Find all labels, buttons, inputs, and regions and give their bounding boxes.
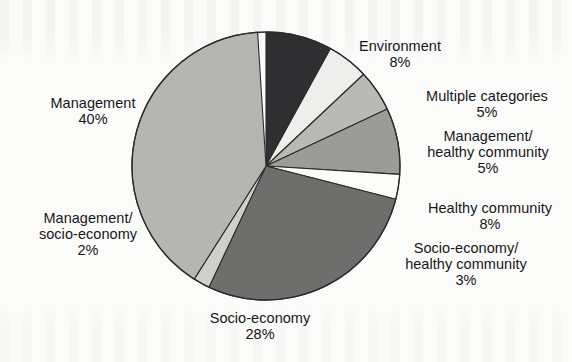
- pie-label-socio-economy-healthy-community: Socio-economy/ healthy community 3%: [376, 240, 556, 289]
- pie-label-management-socio-economy: Management/ socio-economy 2%: [8, 210, 168, 259]
- pie-label-management-healthy-community-value: 5%: [412, 160, 564, 176]
- pie-label-management-socio-economy-value: 2%: [8, 242, 168, 258]
- pie-label-multiple-categories-value: 5%: [408, 104, 566, 120]
- pie-label-management: Management 40%: [18, 95, 168, 127]
- pie-label-management-text: Management: [18, 95, 168, 111]
- pie-label-healthy-community: Healthy community 8%: [412, 200, 568, 232]
- pie-label-environment: Environment 8%: [330, 38, 470, 70]
- pie-label-healthy-community-text: Healthy community: [412, 200, 568, 216]
- pie-label-management-healthy-community-text-1: Management/: [412, 128, 564, 144]
- pie-chart-svg: [0, 0, 572, 362]
- pie-chart: Management 40% Management/ socio-economy…: [0, 0, 572, 362]
- pie-label-management-value: 40%: [18, 111, 168, 127]
- pie-label-management-socio-economy-text-1: Management/: [8, 210, 168, 226]
- pie-label-environment-value: 8%: [330, 54, 470, 70]
- pie-label-healthy-community-value: 8%: [412, 216, 568, 232]
- pie-label-socio-economy-healthy-community-text-2: healthy community: [376, 256, 556, 272]
- pie-label-multiple-categories-text: Multiple categories: [408, 88, 566, 104]
- pie-label-management-healthy-community: Management/ healthy community 5%: [412, 128, 564, 177]
- pie-label-management-healthy-community-text-2: healthy community: [412, 144, 564, 160]
- pie-label-socio-economy: Socio-economy 28%: [170, 310, 350, 342]
- pie-slice-group: [132, 32, 400, 300]
- pie-label-socio-economy-value: 28%: [170, 326, 350, 342]
- pie-label-management-socio-economy-text-2: socio-economy: [8, 226, 168, 242]
- pie-label-socio-economy-healthy-community-text-1: Socio-economy/: [376, 240, 556, 256]
- pie-label-socio-economy-healthy-community-value: 3%: [376, 272, 556, 288]
- pie-label-multiple-categories: Multiple categories 5%: [408, 88, 566, 120]
- pie-label-environment-text: Environment: [330, 38, 470, 54]
- pie-label-socio-economy-text: Socio-economy: [170, 310, 350, 326]
